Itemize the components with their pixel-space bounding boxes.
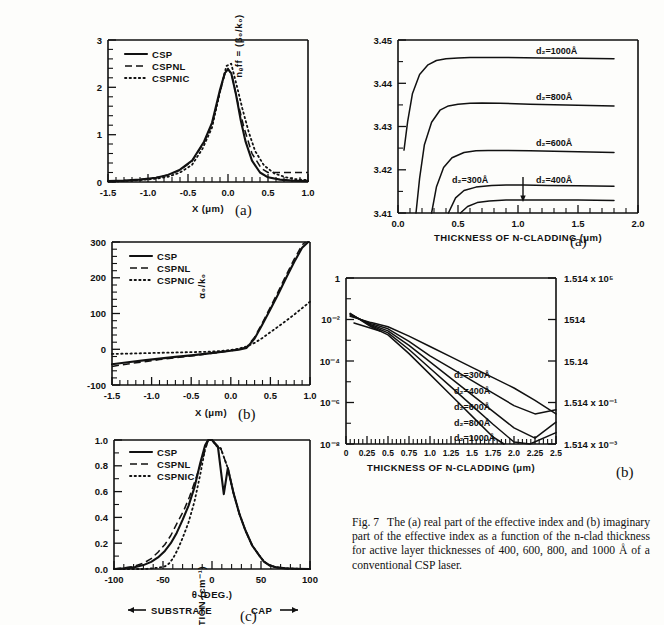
curve-label-b-1000: d₂=1000Å bbox=[454, 433, 496, 443]
x-axis-title: X (μm) bbox=[192, 203, 224, 214]
curve-csp bbox=[108, 69, 308, 181]
ytick-label-left: 10⁻⁸ bbox=[320, 439, 340, 450]
xtick-label: 0.5 bbox=[451, 218, 465, 229]
legend-label: CSP bbox=[157, 251, 178, 262]
x-axis-title: THICKNESS OF N-CLADDING (μm) bbox=[367, 462, 535, 473]
xtick-label: -1.0 bbox=[140, 187, 156, 198]
chart-effective-index-real: 3.41 3.42 3.43 3.44 3.45 0.0 0.5 1.0 1.5… bbox=[340, 28, 660, 258]
xtick-label: -0.5 bbox=[183, 390, 200, 401]
legend-label: CSP bbox=[152, 49, 173, 60]
curve-csp bbox=[112, 242, 308, 364]
ytick-label-left: 1 bbox=[335, 273, 341, 284]
ytick-label: 1 bbox=[97, 129, 103, 140]
curve-cspnic bbox=[112, 302, 310, 354]
ytick-label: 200 bbox=[90, 272, 106, 283]
right-arrow-icon bbox=[292, 607, 298, 613]
legend-label: CSPNL bbox=[157, 459, 191, 470]
ytick-label-right: 1.514 x 10⁻¹ bbox=[564, 397, 617, 408]
xtick-label: 0.5 bbox=[264, 390, 278, 401]
xtick-label: 1.0 bbox=[301, 187, 314, 198]
panel-letter: (c) bbox=[240, 608, 257, 625]
xtick-label: -1.5 bbox=[104, 390, 121, 401]
ytick-label: 1.0 bbox=[95, 435, 108, 446]
left-arrow-icon bbox=[128, 607, 134, 613]
curve-label-400: d₂=400Å bbox=[536, 175, 573, 185]
ytick-label: 0.6 bbox=[95, 486, 108, 497]
xtick-label: 0.0 bbox=[224, 390, 237, 401]
chart-effective-index-imaginary: 1 10⁻² 10⁻⁴ 10⁻⁶ 10⁻⁸ 1.514 x 10⁵ 1514 1… bbox=[298, 268, 660, 483]
curve-label-600: d₂=600Å bbox=[536, 138, 573, 148]
ytick-label: -100 bbox=[87, 380, 106, 391]
curve-cspnic bbox=[114, 440, 310, 569]
xtick-label: -1.5 bbox=[100, 187, 117, 198]
xtick-label: -0.5 bbox=[180, 187, 197, 198]
ytick-label: 2 bbox=[97, 82, 102, 93]
curve-label-b-600: d₂=600Å bbox=[454, 402, 491, 412]
ytick-label: 0.8 bbox=[95, 460, 108, 471]
curve-label-b-800: d₂=800Å bbox=[454, 418, 491, 428]
figure-caption: Fig. 7 The (a) real part of the effectiv… bbox=[352, 516, 650, 573]
xtick-label: 2.0 bbox=[631, 218, 644, 229]
panel-letter: (b) bbox=[238, 406, 256, 423]
panel-letter: (b) bbox=[616, 464, 634, 481]
xtick-label: 2.0 bbox=[508, 448, 520, 458]
x-axis-title: X (μm) bbox=[195, 407, 227, 418]
down-arrow-icon bbox=[520, 196, 525, 203]
ytick-label-right: 1.514 x 10⁵ bbox=[564, 273, 613, 284]
curve-label-1000: d₂=1000Å bbox=[536, 46, 578, 56]
ytick-label: 0 bbox=[97, 177, 102, 188]
ytick-label-left: 10⁻⁶ bbox=[320, 397, 340, 408]
curve-label-b-400: d₂=400Å bbox=[454, 386, 491, 396]
ytick-label-right: 15.14 bbox=[564, 356, 588, 367]
ytick-label: 3.42 bbox=[374, 164, 393, 175]
xtick-label: 2.25 bbox=[527, 448, 544, 458]
chart-near-field-intensity: 0 1 2 3 -1.5 -1.0 -0.5 0.0 0.5 1.0 X (μm… bbox=[30, 22, 330, 222]
curve-d2-400 bbox=[448, 185, 614, 213]
y-axis-title-left: α₀/k₀ bbox=[196, 273, 207, 298]
xtick-label: 1.5 bbox=[571, 218, 585, 229]
curve-cspnl bbox=[108, 68, 308, 181]
y-axis-title: nₑff = (β₀/k₀) bbox=[233, 14, 244, 78]
xtick-label: 1.75 bbox=[485, 448, 502, 458]
curve-cspnl bbox=[114, 440, 310, 569]
panel-letter: (a) bbox=[235, 202, 252, 219]
ytick-label: 3.44 bbox=[374, 78, 393, 89]
ytick-label: 0.0 bbox=[95, 564, 108, 575]
ytick-label: 100 bbox=[90, 308, 106, 319]
curve-csp bbox=[114, 440, 310, 569]
xtick-label: 0.5 bbox=[261, 187, 275, 198]
ytick-label: 300 bbox=[90, 237, 106, 248]
ytick-label-left: 10⁻² bbox=[321, 314, 340, 325]
ytick-label-left: 10⁻⁴ bbox=[320, 356, 341, 367]
leader-arrow-300 bbox=[520, 177, 525, 202]
y-axis-title-right: ABSORPTION (cm⁻¹) bbox=[196, 566, 207, 625]
ytick-label: 0.2 bbox=[95, 538, 108, 549]
chart-far-field-intensity: 0.0 0.2 0.4 0.6 0.8 1.0 -100 -50 0 50 10… bbox=[30, 432, 330, 622]
ytick-label: 3 bbox=[97, 35, 102, 46]
legend-label: CSPNL bbox=[152, 61, 186, 72]
xtick-label: 50 bbox=[256, 574, 267, 585]
cap-annotation: CAP bbox=[251, 605, 298, 616]
xtick-label: 0 bbox=[344, 448, 349, 458]
xtick-label: 0.0 bbox=[391, 218, 404, 229]
xtick-label: 0.25 bbox=[359, 448, 376, 458]
xtick-label: 1.25 bbox=[443, 448, 460, 458]
xtick-label: 0.0 bbox=[221, 187, 234, 198]
curve-label-800: d₂=800Å bbox=[536, 92, 573, 102]
curve-d2-800 bbox=[416, 103, 614, 213]
ytick-label-right: 1514 bbox=[564, 314, 586, 325]
legend-label: CSPNIC bbox=[157, 275, 195, 286]
xtick-label: 2.5 bbox=[550, 448, 562, 458]
xtick-label: 100 bbox=[302, 574, 318, 585]
curve-cspnl bbox=[112, 242, 306, 366]
xtick-label: 0.5 bbox=[382, 448, 394, 458]
xtick-label: 0.75 bbox=[401, 448, 418, 458]
caption-text: The (a) real part of the effective index… bbox=[352, 516, 650, 572]
xtick-label: 0 bbox=[209, 574, 214, 585]
caption-label: Fig. 7 bbox=[352, 516, 379, 529]
ytick-label: 0.4 bbox=[95, 512, 109, 523]
xtick-label: -50 bbox=[156, 574, 170, 585]
xtick-label: 1.5 bbox=[466, 448, 478, 458]
curve-label-b-300: d₂=300Å bbox=[454, 370, 491, 380]
